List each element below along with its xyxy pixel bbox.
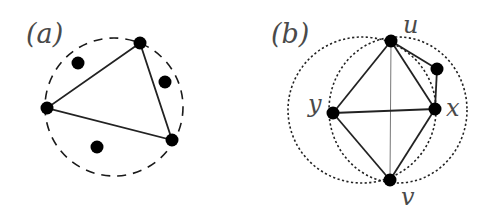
panel-b-label: (b) xyxy=(271,18,309,49)
point xyxy=(72,57,85,70)
triangle-vertex-left xyxy=(41,102,54,115)
panel-b: (b) u v x y xyxy=(271,11,467,211)
point xyxy=(159,76,172,89)
edge-y-x xyxy=(333,109,435,113)
triangle xyxy=(47,43,172,140)
vertex-extra xyxy=(431,63,444,76)
label-x: x xyxy=(446,94,460,122)
label-u: u xyxy=(403,11,418,39)
vertex-y xyxy=(327,107,340,120)
point xyxy=(91,141,104,154)
edge-u-x xyxy=(391,41,435,109)
label-v: v xyxy=(401,183,415,211)
vertex-u xyxy=(385,35,398,48)
panel-a: (a) xyxy=(26,18,183,176)
edge-x-v xyxy=(390,109,435,180)
edge-u-y xyxy=(333,41,391,113)
panel-a-label: (a) xyxy=(26,18,63,49)
figure: (a) (b) u v x y xyxy=(0,0,495,217)
triangle-vertex-bottom-right xyxy=(166,134,179,147)
triangle-vertex-top xyxy=(134,37,147,50)
edge-y-v xyxy=(333,113,390,180)
label-y: y xyxy=(307,90,322,118)
vertex-x xyxy=(429,103,442,116)
edge-u-w xyxy=(391,41,437,69)
vertex-v xyxy=(384,174,397,187)
dashed-circle xyxy=(45,38,183,176)
